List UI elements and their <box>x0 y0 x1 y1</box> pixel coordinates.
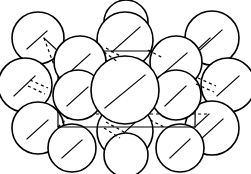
crystal-structure-figure <box>0 0 251 174</box>
crystal-structure-svg <box>0 0 251 174</box>
atom-corner-front-bottom-right <box>156 124 204 172</box>
atom-corner-front-bottom-left <box>48 124 96 172</box>
atom-edge-front-bottom-mid <box>104 133 148 174</box>
atom-body-center <box>91 56 159 124</box>
